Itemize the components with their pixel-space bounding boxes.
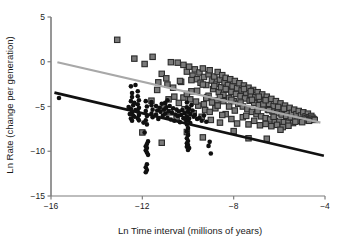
data-point-square xyxy=(209,100,214,105)
y-tick-label: 0 xyxy=(40,57,45,67)
data-point-square xyxy=(271,114,276,119)
data-point-square xyxy=(223,86,228,91)
data-point-square xyxy=(263,98,268,103)
data-point-circle xyxy=(135,94,140,99)
data-point-square xyxy=(234,121,239,126)
data-point-square xyxy=(164,76,169,81)
data-point-circle xyxy=(57,96,62,101)
data-point-square xyxy=(175,60,180,65)
data-point-circle xyxy=(146,153,151,158)
data-point-square xyxy=(201,102,206,107)
data-point-square xyxy=(293,119,298,124)
data-point-square xyxy=(172,94,177,99)
data-point-circle xyxy=(202,113,207,118)
data-point-circle xyxy=(141,120,146,125)
data-point-circle xyxy=(150,107,155,112)
data-point-circle xyxy=(135,89,140,94)
data-point-square xyxy=(207,68,212,73)
data-point-square xyxy=(200,66,205,71)
data-point-square xyxy=(229,116,234,121)
data-point-circle xyxy=(186,148,191,153)
data-point-square xyxy=(177,78,182,83)
data-point-square xyxy=(256,94,261,99)
data-point-circle xyxy=(190,108,195,113)
data-point-circle xyxy=(127,112,132,117)
data-point-square xyxy=(249,97,254,102)
data-point-square xyxy=(263,121,268,126)
x-tick-label: −12 xyxy=(135,201,150,211)
scatter-plot-figure: 50−5−10−15−16−12−8−4 Ln Time interval (m… xyxy=(0,0,337,243)
data-point-circle xyxy=(132,101,137,106)
data-point-square xyxy=(189,77,194,82)
data-point-circle xyxy=(143,99,148,104)
data-point-square xyxy=(275,104,280,109)
data-point-square xyxy=(269,123,274,128)
x-tick-label: −8 xyxy=(229,201,239,211)
data-point-circle xyxy=(165,98,170,103)
data-point-square xyxy=(200,82,205,87)
data-point-circle xyxy=(130,91,135,96)
data-point-circle xyxy=(193,113,198,118)
data-point-square xyxy=(257,123,262,128)
data-point-square xyxy=(176,100,181,105)
data-point-square xyxy=(193,99,198,104)
data-point-square xyxy=(286,123,291,128)
data-point-circle xyxy=(132,114,137,119)
chart-canvas: 50−5−10−15−16−12−8−4 Ln Time interval (m… xyxy=(0,0,337,243)
data-point-circle xyxy=(143,170,148,175)
data-point-square xyxy=(200,135,205,140)
data-point-square xyxy=(299,119,304,124)
data-point-square xyxy=(232,108,237,113)
data-point-square xyxy=(181,62,186,67)
data-point-square xyxy=(150,54,155,59)
y-tick-label: −5 xyxy=(35,102,45,112)
data-point-circle xyxy=(187,116,192,121)
y-tick-label: 5 xyxy=(40,12,45,22)
data-point-circle xyxy=(157,106,162,111)
data-point-square xyxy=(115,37,120,42)
data-point-circle xyxy=(130,119,135,124)
data-point-circle xyxy=(149,100,154,105)
data-point-circle xyxy=(199,119,204,124)
data-point-square xyxy=(215,103,220,108)
data-point-circle xyxy=(189,103,194,108)
data-point-circle xyxy=(137,118,142,123)
data-point-circle xyxy=(145,104,150,109)
y-tick-label: −10 xyxy=(31,146,46,156)
data-point-circle xyxy=(207,140,212,145)
data-point-circle xyxy=(209,151,214,156)
data-point-square xyxy=(159,140,164,145)
y-axis-title: Ln Rate (change per generation) xyxy=(4,36,15,173)
x-tick-label: −16 xyxy=(44,201,59,211)
y-tick-label: −15 xyxy=(31,191,46,201)
data-point-square xyxy=(248,89,253,94)
data-point-circle xyxy=(130,95,135,100)
data-point-square xyxy=(217,120,222,125)
data-point-square xyxy=(168,60,173,65)
data-point-square xyxy=(278,127,283,132)
data-point-circle xyxy=(204,119,209,124)
data-point-square xyxy=(226,104,231,109)
data-point-square xyxy=(186,64,191,69)
data-point-square xyxy=(154,87,159,92)
data-point-square xyxy=(220,112,225,117)
data-point-circle xyxy=(133,83,138,88)
data-point-square xyxy=(244,113,249,118)
data-point-square xyxy=(212,83,217,88)
data-point-circle xyxy=(206,144,211,149)
data-point-square xyxy=(132,56,137,61)
data-point-square xyxy=(246,122,251,127)
data-point-square xyxy=(281,106,286,111)
data-point-circle xyxy=(185,100,190,105)
data-point-circle xyxy=(129,84,134,89)
data-point-circle xyxy=(137,98,142,103)
x-tick-label: −4 xyxy=(320,201,330,211)
data-point-square xyxy=(241,86,246,91)
data-point-square xyxy=(208,117,213,122)
data-point-square xyxy=(207,109,212,114)
x-axis-title: Ln Time interval (millions of years) xyxy=(118,225,262,236)
data-point-square xyxy=(252,118,257,123)
data-point-square xyxy=(142,61,147,66)
data-point-circle xyxy=(142,130,147,135)
